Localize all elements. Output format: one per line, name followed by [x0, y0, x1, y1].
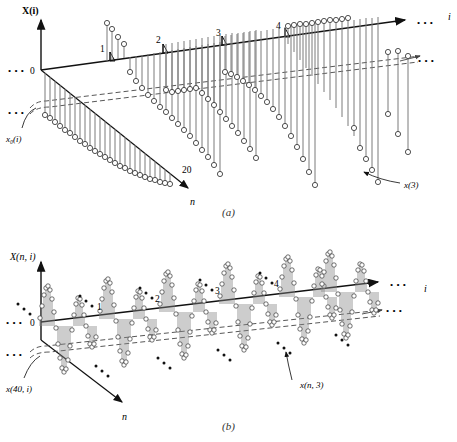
- axis-label-i-b: i: [424, 283, 427, 294]
- label-x3-a: x(3): [403, 180, 419, 190]
- caption-a: (a): [0, 206, 457, 218]
- ellipsis-left-b: • • •: [6, 318, 22, 328]
- tick-i-1-a: 1: [100, 44, 105, 54]
- stem-group-n1-a: [104, 20, 222, 176]
- tick-i-2-a: 2: [156, 35, 161, 45]
- stem-group-n4-a: [285, 15, 380, 184]
- tick-i-1-b: 1: [97, 302, 102, 312]
- annotation-x40i-b: [24, 356, 40, 378]
- tick-n-20-a: 20: [182, 165, 192, 175]
- ellipsis-i-b: • • •: [390, 280, 406, 290]
- wave-packet-5-b: [320, 250, 380, 340]
- ellipsis-left-a: • • •: [8, 66, 24, 76]
- tick-i-4-b: 4: [274, 279, 279, 289]
- tick-i-2-b: 2: [155, 294, 160, 304]
- annotation-x3-a: [364, 172, 400, 183]
- i-ticks-a: [110, 28, 285, 61]
- axis-label-X-a: X(i): [22, 5, 39, 17]
- panel-b: X(n, i) • • • i n 0 • • • • • • • • •: [0, 230, 457, 442]
- origin-label-b: 0: [30, 318, 35, 328]
- n-axis-b: [41, 340, 122, 402]
- wave-packet-3-b: [218, 262, 278, 352]
- i-tick-glyphs-a: [110, 28, 290, 61]
- axis-label-i-a: i: [448, 11, 451, 22]
- tick-i-3-b: 3: [215, 286, 220, 296]
- ellipsis-dashed-a: • • •: [418, 56, 434, 66]
- caption-b: (b): [0, 420, 457, 432]
- panel-a: X(i) • • • i 20 n 0 • • • • • • • •: [0, 0, 457, 221]
- wave-packet-4-b: [278, 255, 338, 345]
- axis-label-Xni-b: X(n, i): [9, 251, 36, 263]
- wave-packet-1-b: [98, 277, 158, 367]
- ellipsis-dashed-b: • • •: [386, 306, 402, 316]
- stem-group-n3-a: [222, 23, 317, 188]
- label-x40i-b: x(40, i): [5, 384, 32, 394]
- origin-label-a: 0: [30, 66, 35, 76]
- stem-group-x0-a: [42, 73, 172, 187]
- ellipsis-lower-left-a: • • •: [8, 108, 24, 118]
- wave-packet-0-b: [38, 284, 98, 374]
- label-xn3-b: x(n, 3): [299, 380, 324, 390]
- ellipsis-lower-left-b: • • •: [6, 350, 22, 360]
- label-x0-a: x₀(i): [5, 134, 22, 144]
- figure-root: X(i) • • • i 20 n 0 • • • • • • • •: [0, 0, 457, 442]
- stem-group-tail-a: [385, 48, 410, 154]
- annotation-xn3-b: [286, 352, 292, 380]
- ellipsis-i-a: • • •: [417, 18, 433, 28]
- wave-packet-2-b: [158, 270, 218, 360]
